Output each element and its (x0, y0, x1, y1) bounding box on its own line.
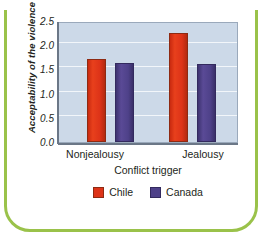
y-axis-tick-labels: 2.5 2.0 1.5 1.0 0.5 0.0 (14, 0, 54, 242)
y-tick-label: 0.0 (28, 138, 54, 148)
bar-nonjealousy-chile (87, 59, 106, 142)
legend-item-canada: Canada (150, 186, 203, 198)
bar-chart: Acceptability of the violence 2.5 2.0 1.… (0, 0, 265, 242)
x-axis-title: Conflict trigger (58, 164, 238, 176)
y-tick-label: 0.5 (28, 114, 54, 124)
legend-label-chile: Chile (109, 186, 133, 198)
y-tick-label: 2.0 (28, 41, 54, 51)
bar-nonjealousy-canada (115, 63, 134, 142)
y-tick-label: 2.5 (28, 17, 54, 27)
x-axis-line (58, 143, 238, 145)
y-axis-line (57, 22, 59, 144)
bar-jealousy-chile (169, 33, 188, 142)
x-tick-label-jealousy: Jealousy (158, 148, 248, 160)
y-tick-label: 1.0 (28, 90, 54, 100)
bar-jealousy-canada (197, 64, 216, 142)
legend-item-chile: Chile (93, 186, 133, 198)
plot-area (58, 22, 238, 143)
chart-legend: Chile Canada (58, 186, 238, 198)
legend-swatch-chile-icon (93, 187, 104, 198)
gridline-2-0 (59, 42, 237, 43)
y-tick-label: 1.5 (28, 65, 54, 75)
x-tick-label-nonjealousy: Nonjealousy (50, 148, 140, 160)
legend-label-canada: Canada (166, 186, 203, 198)
legend-swatch-canada-icon (150, 187, 161, 198)
